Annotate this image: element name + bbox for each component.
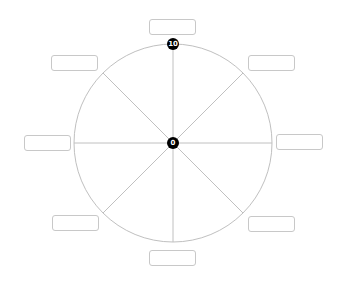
scale-max-badge: 10 xyxy=(167,38,179,50)
spoke-lower-right xyxy=(173,143,243,213)
label-box-bottom[interactable] xyxy=(149,250,196,266)
label-box-upper-left[interactable] xyxy=(51,55,98,71)
label-box-top[interactable] xyxy=(149,19,196,35)
spoke-upper-right xyxy=(173,73,243,143)
label-box-lower-right[interactable] xyxy=(248,216,295,232)
label-box-left[interactable] xyxy=(24,135,71,151)
label-box-right[interactable] xyxy=(276,134,323,150)
label-box-upper-right[interactable] xyxy=(248,55,295,71)
spoke-lower-left xyxy=(103,143,173,213)
scale-min-badge: 0 xyxy=(167,137,179,149)
spoke-upper-left xyxy=(103,73,173,143)
label-box-lower-left[interactable] xyxy=(52,215,99,231)
